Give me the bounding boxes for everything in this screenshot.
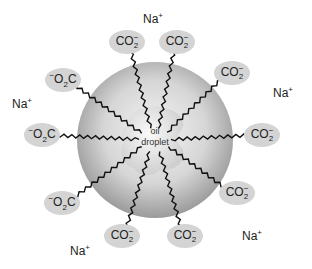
carboxylate-label: CO−2	[166, 34, 189, 50]
carboxylate-label: −O2C	[28, 126, 55, 143]
carboxylate-label: CO−2	[226, 185, 249, 201]
sodium-counter-ion: Na+	[143, 11, 163, 26]
oil-droplet-label-oil: oil	[150, 126, 159, 136]
carboxylate-label: CO−2	[174, 228, 197, 244]
carboxylate-label: −O2C	[48, 194, 75, 211]
carboxylate-label: −O2C	[49, 71, 76, 88]
carboxylate-label: CO−2	[251, 127, 274, 143]
carboxylate-label: CO−2	[116, 34, 139, 50]
carboxylate-label: CO−2	[221, 65, 244, 81]
sodium-counter-ion: Na+	[70, 243, 90, 258]
sodium-counter-ion: Na+	[273, 85, 293, 100]
sodium-counter-ion: Na+	[242, 228, 262, 243]
sodium-counter-ion: Na+	[12, 96, 32, 111]
oil-droplet-label-droplet: droplet	[141, 137, 169, 147]
carboxylate-label: CO−2	[111, 228, 134, 244]
